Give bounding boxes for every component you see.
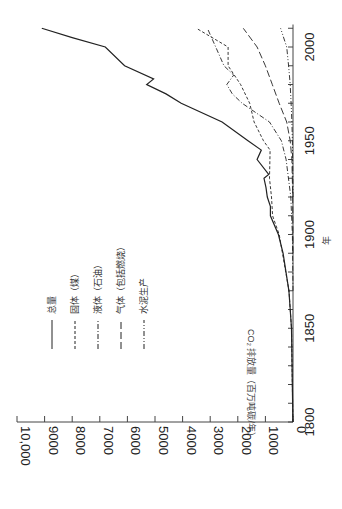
legend-label: 水泥生产 [138, 278, 149, 314]
value-tick-label: 6000 [128, 426, 143, 455]
value-tick-label: 1000 [266, 426, 281, 455]
legend-label: 固体（煤） [69, 269, 80, 314]
value-tick-label: 7000 [101, 426, 116, 455]
year-tick-label: 1800 [302, 408, 317, 437]
series-line-3 [243, 28, 293, 253]
year-tick-label: 1900 [302, 220, 317, 249]
year-tick-label: 2000 [302, 33, 317, 62]
y-axis-title: CO₂ 排放量（百万吨碳/年） [246, 329, 257, 441]
series-line-2 [207, 28, 293, 291]
legend-label: 总量 [46, 296, 57, 314]
value-tick-label: 3000 [211, 426, 226, 455]
series-line-1 [196, 28, 293, 422]
year-tick-label: 1950 [302, 126, 317, 155]
value-tick-label: 5000 [156, 426, 171, 455]
legend-label: 液体（石油） [92, 260, 103, 314]
value-tick-label: 8000 [73, 426, 88, 455]
x-axis-title: 年 [321, 236, 332, 245]
value-tick-label: 10,000 [18, 426, 33, 466]
year-tick-label: 1850 [302, 314, 317, 343]
series-line-4 [281, 28, 293, 197]
value-tick-label: 9000 [46, 426, 61, 455]
legend-label: 气体（包括燃烧） [115, 242, 126, 314]
value-tick-label: 4000 [184, 426, 199, 455]
legend: 总量固体（煤）液体（石油）气体（包括燃烧）水泥生产 [46, 242, 149, 349]
co2-emissions-chart: 010002000300040005000600070008000900010,… [0, 0, 342, 509]
axes: 010002000300040005000600070008000900010,… [17, 25, 317, 466]
